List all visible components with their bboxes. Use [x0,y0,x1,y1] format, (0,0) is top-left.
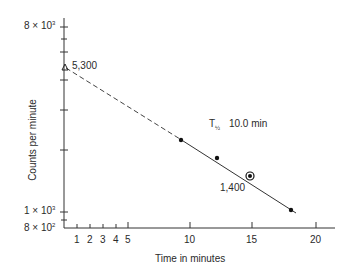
annotation-start-value: 5,300 [72,60,97,71]
x-tick-label-3: 3 [100,234,106,245]
chart-plot [0,0,351,279]
x-tick-label-15: 15 [246,234,257,245]
x-tick-label-10: 10 [184,234,195,245]
annotation-half-life: T½ 10.0 min [209,118,267,131]
data-point [248,174,252,178]
data-point [215,156,219,160]
y-axis-title: Counts per minute [27,99,38,181]
data-point [179,138,183,142]
half-life-value: 10.0 min [229,118,267,129]
half-life-subscript: ½ [215,125,220,131]
triangle-marker [62,64,68,70]
x-tick-label-5: 5 [125,234,131,245]
fit-line [180,139,296,213]
x-ticks [77,222,316,228]
data-point [289,208,293,212]
x-axis-title: Time in minutes [155,253,225,264]
y-tick-mid-base: 1 × 10 [24,205,52,216]
y-tick-top-base: 8 × 10 [24,20,52,31]
y-tick-label-bottom: 8 × 102 [24,222,55,233]
y-tick-top-exp: 3 [52,20,55,26]
y-tick-bot-exp: 2 [52,222,55,228]
annotation-point-value: 1,400 [220,182,245,193]
x-tick-label-20: 20 [310,234,321,245]
x-tick-label-1: 1 [74,234,80,245]
x-tick-label-4: 4 [113,234,119,245]
y-tick-label-top: 8 × 103 [24,20,55,31]
extrapolation-line [66,68,180,139]
y-tick-label-mid: 1 × 103 [24,205,55,216]
x-tick-label-2: 2 [87,234,93,245]
y-tick-mid-exp: 3 [52,205,55,211]
y-tick-bot-base: 8 × 10 [24,222,52,233]
